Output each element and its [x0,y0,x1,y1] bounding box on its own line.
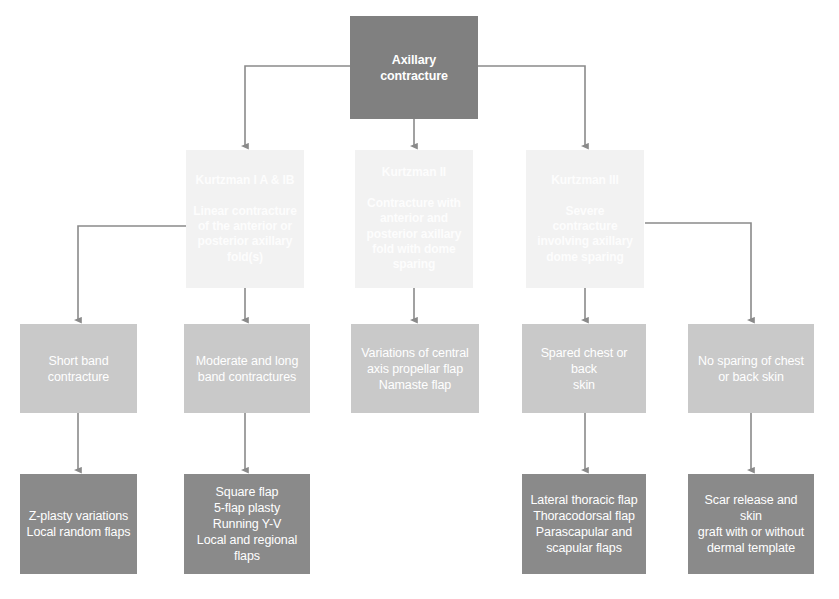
node-no-sparing-chest-or-back-skin[interactable]: No sparing of chest or back skin [688,324,814,413]
node-axillary-contracture[interactable]: Axillary contracture [350,16,478,119]
node-lateral-thoracic-flap-options[interactable]: Lateral thoracic flap Thoracodorsal flap… [522,474,646,574]
node-zplasty-variations[interactable]: Z-plasty variations Local random flaps [20,474,137,574]
node-moderate-long-band-contractures[interactable]: Moderate and long band contractures [184,324,310,413]
node-square-flap-options[interactable]: Square flap 5-flap plasty Running Y-V Lo… [184,474,310,574]
node-spared-chest-or-back-skin[interactable]: Spared chest or back skin [522,324,646,413]
node-short-band-contracture[interactable]: Short band contracture [20,324,137,413]
node-kurtzman-1[interactable]: Kurtzman I A & IB Linear contracture of … [186,150,304,288]
node-scar-release-skin-graft[interactable]: Scar release and skin graft with or with… [688,474,814,574]
node-kurtzman-2[interactable]: Kurtzman II Contracture with anterior an… [355,150,473,288]
flowchart-canvas: Axillary contracture Kurtzman I A & IB L… [0,0,839,599]
node-kurtzman-3[interactable]: Kurtzman III Severe contracture involvin… [526,150,644,288]
node-central-axis-propellar-flap[interactable]: Variations of central axis propellar fla… [351,324,479,413]
